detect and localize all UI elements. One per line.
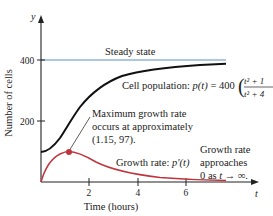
max-growth-line2: occurs at approximately [92,121,194,132]
chart: y t 400 200 2 4 6 Number of cells Time (… [0,0,273,216]
approach-line1: Growth rate [200,144,251,155]
y-axis-var: y [30,11,36,22]
approach-line2: approaches [200,157,247,168]
max-growth-line3: (1.15, 97). [92,134,136,146]
max-point-marker [66,149,72,155]
x-tick-label-6: 6 [184,188,189,198]
cell-population-label: Cell population: p(t) = 400 [122,80,235,92]
fraction-denominator: t² + 4 [244,89,265,99]
y-axis-arrow-icon [38,15,44,23]
x-tick-label-4: 4 [136,188,141,198]
y-tick-label-200: 200 [20,117,35,127]
max-leader-line [69,117,90,151]
y-tick-label-400: 400 [20,56,35,66]
approach-line3: 0 as t → ∞. [200,170,248,181]
x-axis-arrow-icon [251,179,259,185]
growth-rate-label: Growth rate: p′(t) [116,157,190,169]
x-axis-var: t [255,188,258,199]
fraction-numerator: t² + 1 [244,76,264,86]
steady-state-label: Steady state [105,46,156,57]
y-axis-title: Number of cells [3,69,14,137]
x-tick-label-2: 2 [87,188,92,198]
x-axis-title: Time (hours) [84,201,139,213]
max-growth-line1: Maximum growth rate [92,108,187,119]
